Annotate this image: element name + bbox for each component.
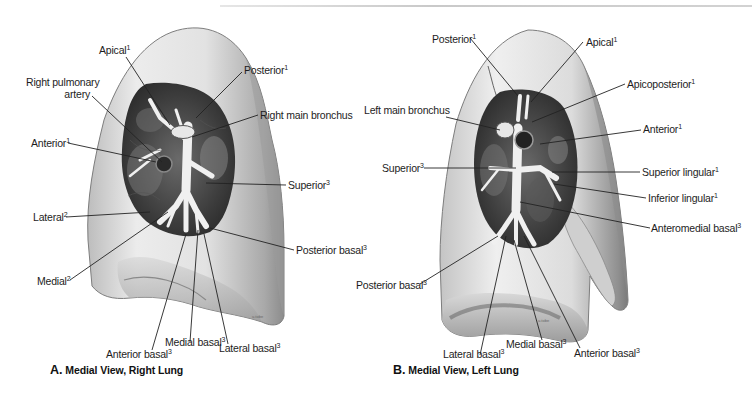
label-b-anteromedial-basal: Anteromedial basal3 xyxy=(651,222,741,234)
svg-text:u.tobe: u.tobe xyxy=(252,314,264,319)
label-b-apicoposterior: Apicoposterior1 xyxy=(627,78,695,90)
label-a-posterior: Posterior1 xyxy=(244,64,288,76)
label-b-apical: Apical1 xyxy=(586,36,617,48)
label-b-lateral-basal: Lateral basal3 xyxy=(443,348,504,360)
label-b-left-main-bronchus: Left main bronchus xyxy=(364,104,450,116)
label-a-medial-basal: Medial basal3 xyxy=(165,336,225,348)
lung-segment-figure: u.tobe xyxy=(0,0,752,400)
label-a-anterior: Anterior1 xyxy=(31,137,70,149)
label-a-apical: Apical1 xyxy=(99,44,130,56)
label-b-superior: Superior3 xyxy=(382,162,424,174)
label-b-posterior-basal: Posterior basal3 xyxy=(356,279,427,291)
label-a-posterior-basal: Posterior basal3 xyxy=(296,244,367,256)
label-a-medial: Medial2 xyxy=(37,275,70,287)
left-lung-drawing: u.tobe xyxy=(440,30,628,342)
label-a-right-pulmonary-artery: Right pulmonaryartery xyxy=(26,76,90,100)
label-a-anterior-basal: Anterior basal3 xyxy=(106,348,172,360)
label-a-lateral-basal: Lateral basal3 xyxy=(219,342,280,354)
label-a-lateral: Lateral2 xyxy=(33,211,67,223)
label-a-superior: Superior3 xyxy=(288,179,330,191)
lung-illustrations: u.tobe xyxy=(0,0,752,400)
caption-panel-b: B.Medial View, Left Lung xyxy=(393,363,519,377)
label-b-anterior: Anterior1 xyxy=(643,123,682,135)
caption-panel-a: A.Medial View, Right Lung xyxy=(50,363,183,377)
label-a-right-main-bronchus: Right main bronchus xyxy=(260,109,353,121)
label-b-anterior-basal: Anterior basal3 xyxy=(574,347,640,359)
label-b-inferior-lingular: Inferior lingular1 xyxy=(648,192,718,204)
svg-text:u.tobe: u.tobe xyxy=(538,318,550,323)
label-b-medial-basal: Medial basal3 xyxy=(506,338,566,350)
label-b-superior-lingular: Superior lingular1 xyxy=(642,166,719,178)
label-b-posterior: Posterior1 xyxy=(432,33,476,45)
